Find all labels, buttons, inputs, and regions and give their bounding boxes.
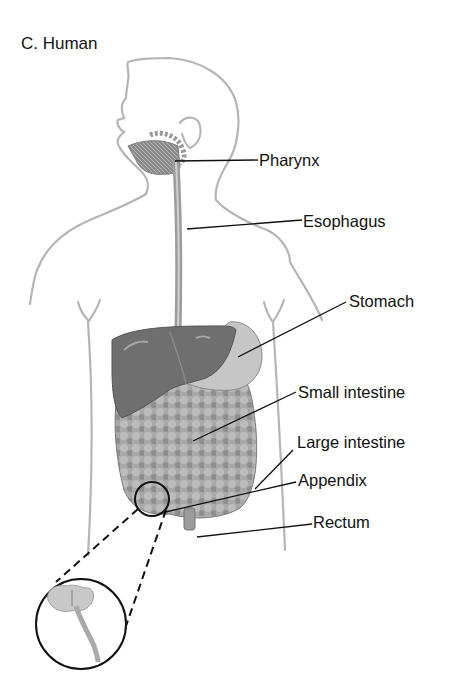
label-small-intestine: Small intestine bbox=[298, 384, 405, 401]
digestive-system-diagram: C. Human Pharynx Esophagus Stomach Small… bbox=[0, 0, 457, 679]
label-large-intestine: Large intestine bbox=[297, 434, 405, 451]
label-pharynx: Pharynx bbox=[259, 152, 320, 169]
label-rectum: Rectum bbox=[313, 514, 370, 531]
label-appendix: Appendix bbox=[298, 472, 367, 489]
rectum bbox=[184, 508, 195, 530]
label-stomach: Stomach bbox=[349, 293, 414, 310]
label-esophagus: Esophagus bbox=[303, 213, 386, 230]
figure-title: C. Human bbox=[21, 34, 98, 54]
